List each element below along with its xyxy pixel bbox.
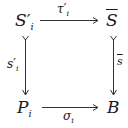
node-prime: ′	[27, 10, 31, 30]
node-base: B	[107, 97, 120, 117]
node-b: B	[107, 99, 120, 116]
node-base: P	[17, 97, 28, 117]
label-s-bar: s	[117, 56, 123, 67]
label-sigma-i: σi	[63, 110, 74, 122]
label-tau-prime-i: τ′i	[57, 3, 69, 15]
node-p-i: Pi	[17, 99, 32, 116]
node-base: S	[106, 10, 118, 30]
node-s-bar: S	[106, 12, 118, 29]
commutative-diagram: S′i S Pi B τ′i s′i s σi	[0, 0, 128, 128]
node-base: S	[15, 10, 27, 30]
arrow-s-prime	[23, 36, 29, 95]
node-subscript: i	[28, 108, 31, 119]
label-base: s	[117, 55, 123, 68]
arrow-tau	[40, 18, 98, 24]
label-subscript: i	[66, 9, 69, 18]
node-s-prime-i: S′i	[15, 12, 34, 29]
label-s-prime-i: s′i	[7, 58, 18, 70]
node-subscript: i	[31, 21, 34, 32]
label-subscript: i	[71, 116, 74, 125]
label-base: σ	[63, 109, 71, 123]
label-base: τ	[57, 2, 64, 16]
arrow-s-bar	[111, 36, 117, 95]
